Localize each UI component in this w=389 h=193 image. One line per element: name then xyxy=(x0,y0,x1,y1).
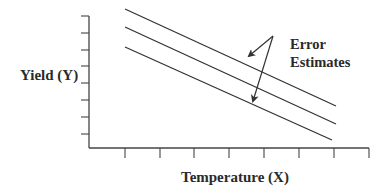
y-axis-label: Yield (Y) xyxy=(20,68,78,83)
annotation-arrows xyxy=(249,36,273,101)
regression-lines xyxy=(125,9,336,140)
y-axis-ticks xyxy=(81,16,89,134)
arrow-to-lower-line xyxy=(253,36,273,101)
annotation-line-2: Estimates xyxy=(290,53,350,71)
error-estimates-annotation: Error Estimates xyxy=(290,35,350,71)
diagram-graphics xyxy=(0,0,389,193)
x-axis-label: Temperature (X) xyxy=(181,170,289,185)
annotation-line-1: Error xyxy=(290,35,350,53)
yield-temperature-diagram: Yield (Y) Temperature (X) Error Estimate… xyxy=(0,0,389,193)
x-axis-ticks xyxy=(125,148,369,158)
